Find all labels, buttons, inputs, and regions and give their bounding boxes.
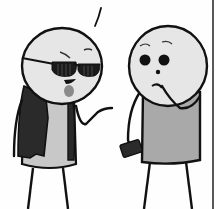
sunglasses-lens-left	[52, 62, 76, 76]
phone	[120, 139, 143, 158]
right-eye-1	[140, 55, 151, 66]
comic-panel	[0, 0, 216, 209]
character-right	[120, 26, 207, 209]
comic-illustration	[0, 0, 216, 209]
left-leg-1	[28, 168, 33, 209]
left-leg-2	[63, 168, 68, 209]
character-left	[14, 28, 112, 209]
goatee	[64, 85, 74, 97]
left-arm-shrug	[76, 106, 112, 124]
speech-tick	[95, 8, 101, 26]
right-leg-2	[186, 162, 192, 209]
sunglasses-lens-right	[78, 64, 100, 76]
right-eye-2	[159, 55, 170, 66]
right-arm-down	[128, 92, 140, 146]
right-leg-1	[144, 162, 150, 209]
right-nose	[156, 70, 160, 74]
left-jacket-right	[68, 96, 75, 160]
